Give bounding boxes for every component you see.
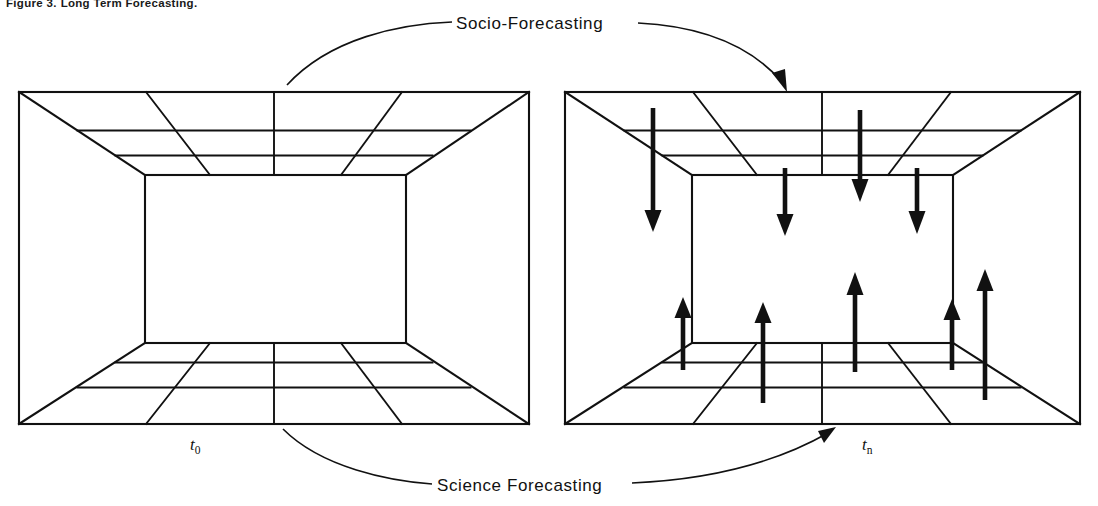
right-floor-columns — [693, 343, 951, 424]
right-diag-tr — [953, 92, 1080, 175]
diagram-canvas: t0 — [0, 0, 1098, 506]
left-floor-columns — [146, 343, 402, 424]
left-diag-br — [406, 343, 529, 424]
left-time-label: t0 — [190, 435, 201, 456]
left-diag-bl — [19, 343, 145, 424]
science-forecasting-label: Science Forecasting — [437, 476, 602, 495]
left-box: t0 — [19, 92, 529, 456]
right-box: tn — [565, 92, 1080, 456]
up-arrow-3 — [847, 272, 864, 372]
socio-arrowhead — [772, 69, 787, 92]
left-inner-rect — [145, 175, 406, 343]
socio-forecasting-link: Socio-Forecasting — [287, 14, 787, 92]
science-arrowhead — [818, 427, 836, 443]
right-diag-br — [953, 343, 1080, 424]
science-arc-left — [283, 429, 432, 484]
right-ceiling-columns — [693, 92, 951, 175]
up-arrow-1 — [675, 297, 692, 370]
down-arrow-4 — [909, 168, 926, 234]
down-arrow-2 — [777, 168, 794, 236]
right-time-sub: n — [867, 444, 873, 456]
up-arrow-5 — [977, 269, 994, 400]
left-ceiling-columns — [146, 92, 402, 175]
down-arrow-1 — [645, 108, 662, 232]
socio-forecasting-label: Socio-Forecasting — [456, 14, 603, 33]
right-time-label: tn — [862, 435, 873, 456]
left-time-sub: 0 — [195, 444, 201, 456]
socio-arc-left — [287, 22, 452, 85]
left-diag-tr — [406, 92, 529, 175]
up-arrow-4 — [944, 299, 961, 370]
right-diag-tl — [565, 92, 692, 175]
socio-arc-right — [638, 23, 782, 82]
figure-root: Figure 3.Long Term Forecasting. — [0, 0, 1098, 506]
right-inner-rect — [692, 175, 953, 343]
up-arrows — [675, 269, 994, 403]
science-forecasting-link: Science Forecasting — [283, 427, 836, 495]
left-diag-tl — [19, 92, 145, 175]
science-arc-right — [632, 433, 828, 483]
right-diag-bl — [565, 343, 692, 424]
